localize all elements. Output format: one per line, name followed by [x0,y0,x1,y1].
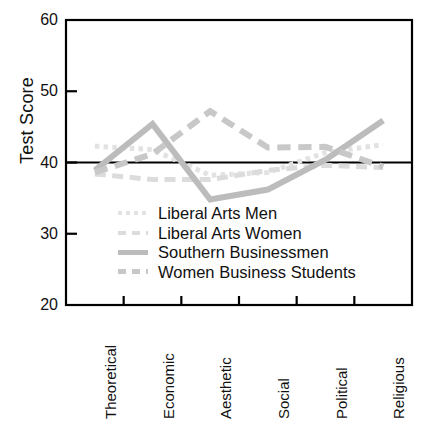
legend-item-1: Liberal Arts Women [118,223,302,243]
x-tick-label-aesthetic: Aesthetic [217,357,234,419]
legend-item-0: Liberal Arts Men [118,203,277,223]
legend-swatch-icon-2 [118,250,148,255]
x-tick-label-religious: Religious [390,357,407,419]
legend-swatch-icon-1 [118,231,148,235]
series-line-1 [95,165,383,179]
legend-item-3: Women Business Students [118,262,356,282]
legend-label-0: Liberal Arts Men [158,203,277,223]
line-chart: Test Score 2030405060 TheoreticalEconomi… [0,0,428,433]
legend-item-2: Southern Businessmen [118,242,329,262]
legend-swatch-icon-0 [118,211,148,215]
legend-label-3: Women Business Students [158,262,356,282]
x-tick-label-theoretical: Theoretical [102,345,119,419]
legend-label-2: Southern Businessmen [158,242,329,262]
x-tick-label-political: Political [333,367,350,419]
legend-label-1: Liberal Arts Women [158,223,302,243]
x-tick-label-social: Social [275,378,292,419]
x-tick-label-economic: Economic [160,353,177,419]
legend-swatch-icon-3 [118,269,148,274]
